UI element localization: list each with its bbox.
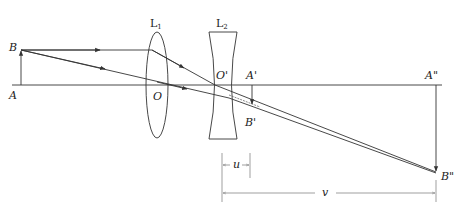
label-B-double-prime: B" <box>440 170 454 183</box>
label-B: B <box>8 41 17 54</box>
label-v: v <box>322 186 329 199</box>
ray2-after-L2 <box>229 98 436 173</box>
optics-diagram: B A L1 O L2 O' A' B' A" B" u v <box>0 0 454 212</box>
label-u: u <box>233 158 240 171</box>
label-A-prime: A' <box>245 69 257 82</box>
label-A-double-prime: A" <box>424 69 438 82</box>
ray2-arrow <box>21 50 105 69</box>
concave-lens-L2 <box>209 32 237 139</box>
label-A: A <box>8 89 17 102</box>
label-O: O <box>153 90 162 103</box>
ray2-arrow2 <box>157 82 187 89</box>
ray1-refracted-arrow <box>152 50 184 68</box>
label-B-prime: B' <box>244 116 256 129</box>
label-L2: L2 <box>216 17 228 31</box>
label-O-prime: O' <box>216 69 228 82</box>
label-L1: L1 <box>150 17 162 31</box>
